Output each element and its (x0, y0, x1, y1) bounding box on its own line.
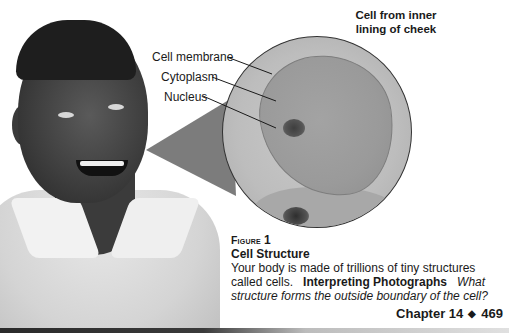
eye-right (108, 104, 124, 110)
micrograph-title-line1: Cell from inner (336, 8, 456, 22)
figure-skill: Interpreting Photographs (303, 275, 447, 289)
neighbor-nucleus-shape (283, 207, 309, 225)
teeth (80, 161, 124, 166)
figure-number-value: 1 (264, 233, 271, 247)
page-number: 469 (481, 306, 503, 321)
eye-left (58, 112, 74, 118)
figure-body: Your body is made of trillions of tiny s… (231, 261, 506, 303)
bottom-rule (0, 328, 509, 333)
micrograph-title-line2: lining of cheek (336, 22, 456, 36)
figure-word: Figure (231, 234, 261, 246)
figure-title: Cell Structure (231, 247, 506, 261)
diamond-icon: ◆ (468, 308, 476, 319)
cheek-cell-micrograph (222, 36, 412, 228)
hair (16, 20, 136, 80)
nucleus-shape (283, 119, 305, 137)
cheek-cell (252, 47, 402, 206)
figure-caption: Figure 1 Cell Structure Your body is mad… (231, 233, 506, 303)
figure-number: Figure 1 (231, 233, 506, 247)
label-nucleus: Nucleus (164, 90, 207, 104)
page-footer: Chapter 14◆469 (396, 306, 503, 321)
textbook-page: Cell from inner lining of cheek Cell mem… (0, 0, 509, 333)
micrograph-title: Cell from inner lining of cheek (336, 8, 456, 36)
label-cytoplasm: Cytoplasm (161, 70, 218, 84)
label-cell-membrane: Cell membrane (152, 50, 233, 64)
chapter-label: Chapter 14 (396, 306, 463, 321)
